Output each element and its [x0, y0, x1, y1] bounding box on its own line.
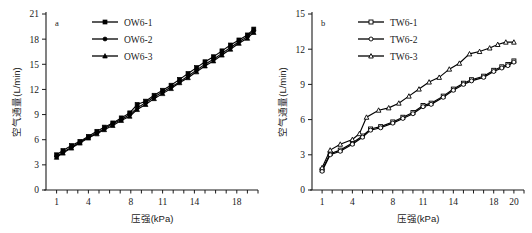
data-point-marker — [369, 20, 373, 24]
chart-panel-a: 036912151821148111418压强(kPa)空气通量(L/min)a… — [0, 0, 266, 233]
legend-label: TW6-3 — [390, 52, 418, 62]
y-tick-label: 21 — [30, 9, 40, 19]
data-point-marker — [369, 37, 373, 41]
y-tick-label: 0 — [300, 185, 305, 195]
x-tick-label: 11 — [418, 197, 427, 207]
legend-label: OW6-3 — [124, 52, 153, 62]
y-tick-label: 6 — [300, 115, 305, 125]
x-tick-label: 20 — [509, 197, 519, 207]
data-point-marker — [338, 149, 342, 153]
x-tick-label: 8 — [390, 197, 395, 207]
x-tick-label: 4 — [86, 197, 91, 207]
data-point-marker — [512, 40, 517, 44]
x-axis-title: 压强(kPa) — [131, 213, 174, 224]
data-point-marker — [477, 49, 482, 53]
figure-container: 036912151821148111418压强(kPa)空气通量(L/min)a… — [0, 0, 532, 233]
data-point-marker — [357, 131, 362, 135]
data-point-marker — [429, 102, 433, 106]
y-tick-label: 0 — [34, 185, 39, 195]
x-tick-label: 11 — [158, 197, 167, 207]
x-tick-label: 14 — [449, 197, 459, 207]
y-tick-label: 15 — [296, 9, 306, 19]
x-tick-label: 4 — [350, 197, 355, 207]
y-tick-label: 12 — [30, 85, 40, 95]
series-TW6-2 — [320, 60, 516, 173]
data-point-marker — [103, 37, 107, 41]
x-tick-label: 1 — [54, 197, 59, 207]
data-point-marker — [328, 148, 333, 152]
data-point-marker — [379, 126, 383, 130]
y-axis-title: 空气通量(L/min) — [11, 67, 22, 137]
x-axis-title: 压强(kPa) — [397, 213, 440, 224]
y-axis-title: 空气通量(L/min) — [277, 67, 288, 137]
chart-panel-b: 0369121514811141820压强(kPa)空气通量(L/min)bTW… — [266, 0, 532, 233]
data-point-marker — [391, 121, 395, 125]
x-tick-label: 18 — [489, 197, 499, 207]
data-point-marker — [386, 105, 391, 109]
data-point-marker — [369, 54, 374, 58]
legend: OW6-1OW6-2OW6-3 — [92, 18, 153, 62]
data-point-marker — [376, 108, 381, 112]
data-point-marker — [500, 66, 504, 70]
data-point-marker — [421, 105, 425, 109]
data-point-marker — [103, 20, 107, 24]
plot-svg: 0369121514811141820压强(kPa)空气通量(L/min)bTW… — [266, 0, 532, 233]
data-point-marker — [495, 42, 500, 46]
data-point-marker — [482, 75, 486, 79]
y-tick-label: 18 — [30, 35, 40, 45]
data-point-marker — [492, 69, 496, 73]
x-tick-label: 1 — [320, 197, 325, 207]
data-point-marker — [467, 51, 472, 55]
legend-label: OW6-2 — [124, 35, 153, 45]
data-point-marker — [364, 115, 369, 119]
series-OW6-1 — [55, 27, 256, 157]
data-point-marker — [427, 80, 432, 84]
data-point-marker — [401, 116, 405, 120]
legend-label: OW6-1 — [124, 18, 153, 28]
data-point-marker — [512, 60, 516, 64]
series-path — [322, 42, 514, 168]
y-tick-label: 9 — [300, 80, 305, 90]
y-tick-label: 12 — [296, 45, 306, 55]
data-point-marker — [470, 79, 474, 83]
data-point-marker — [451, 88, 455, 92]
y-tick-label: 15 — [30, 60, 40, 70]
data-point-marker — [441, 95, 445, 99]
y-tick-label: 9 — [34, 110, 39, 120]
plot-svg: 036912151821148111418压强(kPa)空气通量(L/min)a… — [0, 0, 266, 233]
panel-letter: a — [55, 18, 59, 28]
data-point-marker — [506, 64, 510, 68]
panel-letter: b — [321, 18, 325, 28]
y-tick-label: 6 — [34, 135, 39, 145]
x-tick-label: 18 — [232, 197, 242, 207]
legend-label: TW6-1 — [390, 18, 418, 28]
data-point-marker — [338, 142, 343, 146]
x-tick-label: 14 — [190, 197, 200, 207]
data-point-marker — [487, 46, 492, 50]
legend: TW6-1TW6-2TW6-3 — [358, 18, 418, 62]
data-point-marker — [447, 67, 452, 71]
data-point-marker — [461, 82, 465, 86]
legend-label: TW6-2 — [390, 35, 418, 45]
series-TW6-3 — [320, 40, 516, 170]
y-tick-label: 3 — [300, 150, 305, 160]
data-point-marker — [369, 128, 373, 132]
data-point-marker — [350, 142, 354, 146]
data-point-marker — [411, 112, 415, 116]
x-tick-label: 8 — [128, 197, 133, 207]
y-tick-label: 3 — [34, 160, 39, 170]
data-point-marker — [504, 40, 509, 44]
